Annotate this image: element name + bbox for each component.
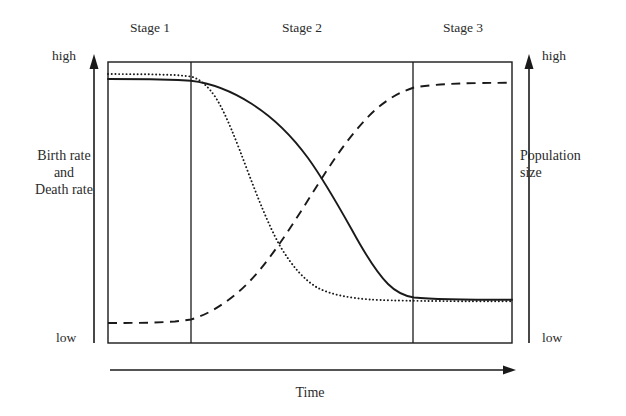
demographic-transition-figure: Stage 1 Stage 2 Stage 3 high low Birth r… bbox=[0, 0, 626, 416]
series-birth-rate bbox=[108, 79, 512, 300]
chart-canvas bbox=[0, 0, 626, 416]
right-axis-arrow-icon bbox=[525, 54, 534, 69]
series-population-size bbox=[108, 83, 512, 323]
series-death-rate bbox=[108, 74, 512, 301]
time-axis-arrow-icon bbox=[503, 366, 516, 375]
left-axis-arrow-icon bbox=[90, 54, 99, 69]
